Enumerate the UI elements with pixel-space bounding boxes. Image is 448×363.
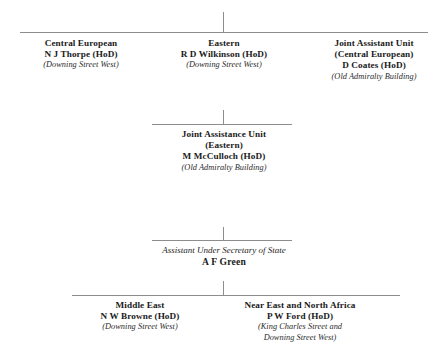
connector-stub-middle <box>223 110 224 124</box>
node-subtitle: (Eastern) <box>144 140 304 151</box>
node-assistant-under-secretary-of-state: Assistant Under Secretary of State A F G… <box>124 245 324 268</box>
node-person: N W Browne (HoD) <box>64 311 216 322</box>
node-title: Joint Assistance Unit <box>144 129 304 140</box>
node-address-line-1: (King Charles Street and <box>224 322 376 332</box>
role-person: A F Green <box>124 256 324 268</box>
node-subtitle: (Central European) <box>304 49 444 60</box>
node-address: (Old Admiralty Building) <box>144 163 304 173</box>
node-address: (Downing Street West) <box>8 60 154 70</box>
node-title: Central European <box>8 38 154 49</box>
node-person: P W Ford (HoD) <box>224 311 376 322</box>
connector-bar-top-row <box>20 32 428 33</box>
node-person: R D Wilkinson (HoD) <box>150 49 298 60</box>
node-person: D Coates (HoD) <box>304 60 444 71</box>
node-central-european: Central European N J Thorpe (HoD) (Downi… <box>8 38 154 71</box>
node-joint-assistance-unit-eastern: Joint Assistance Unit (Eastern) M McCull… <box>144 129 304 173</box>
connector-stub-top <box>223 12 224 32</box>
connector-bar-middle-row <box>152 124 292 125</box>
node-title: Near East and North Africa <box>224 300 376 311</box>
node-joint-assistant-unit-central-european: Joint Assistant Unit (Central European) … <box>304 38 444 82</box>
node-address: (Downing Street West) <box>64 322 216 332</box>
node-address: (Old Admiralty Building) <box>304 72 444 82</box>
node-eastern: Eastern R D Wilkinson (HoD) (Downing Str… <box>150 38 298 71</box>
node-title: Middle East <box>64 300 216 311</box>
connector-bar-centre <box>152 240 292 241</box>
node-person: N J Thorpe (HoD) <box>8 49 154 60</box>
node-person: M McCulloch (HoD) <box>144 151 304 162</box>
role-title: Assistant Under Secretary of State <box>124 245 324 256</box>
node-near-east-and-north-africa: Near East and North Africa P W Ford (HoD… <box>224 300 376 343</box>
node-title: Eastern <box>150 38 298 49</box>
connector-stub-centre-lower <box>223 281 224 295</box>
node-middle-east: Middle East N W Browne (HoD) (Downing St… <box>64 300 216 333</box>
connector-stub-centre-upper <box>223 227 224 240</box>
organisation-chart: Central European N J Thorpe (HoD) (Downi… <box>0 0 448 363</box>
node-address-line-2: Downing Street West) <box>224 333 376 343</box>
connector-bar-bottom-row <box>72 295 400 296</box>
node-address: (Downing Street West) <box>150 60 298 70</box>
node-title: Joint Assistant Unit <box>304 38 444 49</box>
